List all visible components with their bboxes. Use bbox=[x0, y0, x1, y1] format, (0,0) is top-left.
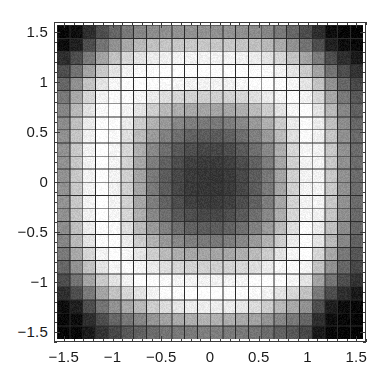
axis-tick bbox=[83, 339, 84, 342]
axis-tick bbox=[220, 22, 221, 25]
axis-tick bbox=[74, 339, 75, 342]
axis-tick bbox=[142, 339, 143, 342]
axis-tick bbox=[317, 339, 318, 342]
axis-tick bbox=[132, 22, 133, 25]
axis-tick bbox=[54, 182, 60, 183]
axis-tick bbox=[239, 22, 240, 25]
x-tick-label: −0.5 bbox=[146, 348, 176, 365]
axis-tick bbox=[103, 22, 104, 25]
axis-tick bbox=[54, 82, 60, 83]
axis-tick bbox=[210, 22, 211, 28]
axis-tick bbox=[363, 172, 366, 173]
axis-tick bbox=[54, 202, 57, 203]
y-tick-label: −1.5 bbox=[18, 323, 48, 340]
axis-tick bbox=[363, 272, 366, 273]
axis-tick bbox=[249, 22, 250, 25]
axis-tick bbox=[54, 232, 60, 233]
axis-tick bbox=[363, 252, 366, 253]
axis-tick bbox=[278, 22, 279, 25]
axis-tick bbox=[54, 342, 57, 343]
axis-tick bbox=[298, 339, 299, 342]
axis-tick bbox=[93, 339, 94, 342]
axis-tick bbox=[363, 322, 366, 323]
axis-tick bbox=[360, 282, 366, 283]
axis-tick bbox=[152, 339, 153, 342]
axis-tick bbox=[54, 132, 60, 133]
axis-tick bbox=[191, 22, 192, 25]
axis-tick bbox=[54, 312, 57, 313]
axis-tick bbox=[54, 152, 57, 153]
density-plot-figure: −1.5−1−0.500.511.5 −1.5−1−0.500.511.5 bbox=[0, 0, 388, 384]
axis-tick bbox=[230, 22, 231, 25]
axis-tick bbox=[54, 42, 57, 43]
axis-tick bbox=[132, 339, 133, 342]
axis-tick bbox=[363, 92, 366, 93]
axis-tick bbox=[54, 282, 60, 283]
axis-tick bbox=[308, 336, 309, 342]
y-tick-label: 0 bbox=[39, 173, 48, 190]
axis-tick bbox=[171, 339, 172, 342]
axis-tick bbox=[269, 22, 270, 25]
x-tick-label: 0.5 bbox=[248, 348, 269, 365]
axis-tick bbox=[363, 162, 366, 163]
axis-tick bbox=[54, 242, 57, 243]
axis-tick bbox=[366, 339, 367, 342]
axis-tick bbox=[363, 52, 366, 53]
x-tick-label: 1 bbox=[303, 348, 312, 365]
axis-tick bbox=[161, 22, 162, 28]
y-tick-label: −0.5 bbox=[18, 223, 48, 240]
axis-tick bbox=[347, 22, 348, 25]
axis-tick bbox=[200, 22, 201, 25]
axis-tick bbox=[363, 142, 366, 143]
axis-tick bbox=[54, 122, 57, 123]
axis-tick bbox=[54, 112, 57, 113]
axis-tick bbox=[363, 302, 366, 303]
axis-tick bbox=[171, 22, 172, 25]
axis-tick bbox=[308, 22, 309, 28]
axis-tick bbox=[122, 22, 123, 25]
x-tick-label: 1.5 bbox=[346, 348, 367, 365]
axis-tick bbox=[210, 336, 211, 342]
axis-tick bbox=[259, 336, 260, 342]
x-tick-label: 0 bbox=[206, 348, 215, 365]
axis-tick bbox=[113, 22, 114, 28]
axis-tick bbox=[288, 339, 289, 342]
axis-tick bbox=[356, 336, 357, 342]
axis-tick bbox=[363, 102, 366, 103]
axis-tick bbox=[64, 22, 65, 28]
axis-tick bbox=[363, 152, 366, 153]
axis-tick bbox=[83, 22, 84, 25]
y-tick-label: 1.5 bbox=[27, 23, 48, 40]
axis-tick bbox=[74, 22, 75, 25]
axis-tick bbox=[54, 142, 57, 143]
axis-tick bbox=[360, 332, 366, 333]
axis-tick bbox=[142, 22, 143, 25]
axis-tick bbox=[363, 112, 366, 113]
axis-tick bbox=[356, 22, 357, 28]
axis-tick bbox=[363, 192, 366, 193]
axis-tick bbox=[54, 322, 57, 323]
axis-tick bbox=[54, 222, 57, 223]
axis-tick bbox=[363, 242, 366, 243]
axis-tick bbox=[347, 339, 348, 342]
axis-tick bbox=[152, 22, 153, 25]
axis-tick bbox=[54, 262, 57, 263]
axis-tick bbox=[327, 22, 328, 25]
axis-tick bbox=[103, 339, 104, 342]
axis-tick bbox=[54, 172, 57, 173]
axis-tick bbox=[363, 262, 366, 263]
axis-tick bbox=[54, 62, 57, 63]
axis-tick bbox=[113, 336, 114, 342]
axis-tick bbox=[161, 336, 162, 342]
axis-tick bbox=[64, 336, 65, 342]
axis-tick bbox=[54, 292, 57, 293]
axis-tick bbox=[54, 22, 57, 23]
axis-tick bbox=[317, 22, 318, 25]
axis-tick bbox=[327, 339, 328, 342]
axis-tick bbox=[363, 312, 366, 313]
axis-tick bbox=[122, 339, 123, 342]
axis-tick bbox=[363, 222, 366, 223]
axis-tick bbox=[181, 339, 182, 342]
axis-tick bbox=[239, 339, 240, 342]
axis-tick bbox=[363, 292, 366, 293]
